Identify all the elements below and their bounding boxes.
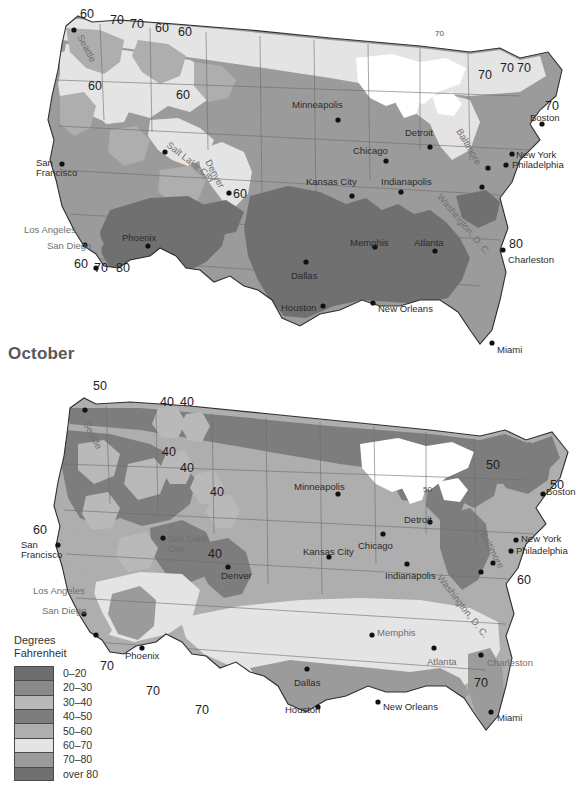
city-dot <box>485 165 490 170</box>
city-dot <box>488 709 493 714</box>
city-label: Miami <box>497 345 522 355</box>
contour-label: 70 <box>110 14 124 27</box>
legend-row: 40–50 <box>14 709 98 723</box>
legend-row: 20–30 <box>14 680 98 694</box>
city-label: Los Angeles <box>24 225 76 235</box>
legend-label: 0–20 <box>63 667 86 679</box>
contour-label: 50 <box>423 486 432 494</box>
city-label: Salt Lake City <box>168 534 208 554</box>
city-dot <box>335 491 340 496</box>
city-dot <box>160 535 165 540</box>
contour-label: 40 <box>180 396 194 409</box>
legend-swatch <box>14 723 54 737</box>
contour-label: 60 <box>517 574 531 587</box>
contour-label: 60 <box>176 89 190 102</box>
city-label: Boston <box>546 487 576 497</box>
contour-label: 40 <box>162 446 176 459</box>
city-dot <box>431 645 436 650</box>
legend-label: 30–40 <box>63 696 92 708</box>
city-dot <box>478 569 483 574</box>
city-dot <box>540 491 545 496</box>
city-label: Denver <box>221 571 252 581</box>
contour-label: 70 <box>478 69 492 82</box>
city-label: Charleston <box>508 255 554 265</box>
city-dot <box>335 117 340 122</box>
city-label: Houston <box>281 303 316 313</box>
city-label: Dallas <box>294 678 320 688</box>
city-dot <box>380 531 385 536</box>
legend-swatch <box>14 709 54 723</box>
legend-row: 0–20 <box>14 666 98 680</box>
city-label: New York <box>521 534 561 544</box>
contour-label: 70 <box>517 62 531 75</box>
city-dot <box>508 548 513 553</box>
city-label: San Francisco <box>21 540 62 560</box>
july-temperature-map: 6070706060606060607080707070707080Seattl… <box>0 0 582 345</box>
city-dot <box>303 259 308 264</box>
contour-label: 70 <box>435 30 444 38</box>
legend-swatch <box>14 666 54 680</box>
legend-row: 50–60 <box>14 723 98 737</box>
contour-label: 60 <box>33 524 47 537</box>
city-dot <box>404 561 409 566</box>
city-label: Phoenix <box>122 233 156 243</box>
contour-label: 80 <box>116 262 130 275</box>
legend-row: 60–70 <box>14 738 98 752</box>
city-label: New Orleans <box>378 304 433 314</box>
contour-label: 60 <box>74 258 88 271</box>
legend-title: Degrees Fahrenheit <box>14 634 98 661</box>
contour-label: 70 <box>100 660 114 673</box>
city-dot <box>225 564 230 569</box>
city-dot <box>432 248 437 253</box>
section-title-october: October <box>8 344 75 364</box>
contour-label: 40 <box>180 462 194 475</box>
city-label: Charleston <box>487 658 533 668</box>
city-label: Detroit <box>404 515 432 525</box>
contour-label: 70 <box>94 262 108 275</box>
city-dot <box>479 184 484 189</box>
contour-label: 80 <box>509 238 523 251</box>
legend-title-line2: Fahrenheit <box>14 647 98 660</box>
city-label: Chicago <box>353 146 388 156</box>
contour-label: 60 <box>88 80 102 93</box>
city-dot <box>398 189 403 194</box>
legend-row: over 80 <box>14 767 98 781</box>
city-label: Phoenix <box>125 651 159 661</box>
city-label: Minneapolis <box>292 100 343 110</box>
city-label: Philadelphia <box>516 546 568 556</box>
legend-row: 70–80 <box>14 752 98 766</box>
contour-label: 70 <box>500 62 514 75</box>
city-label: Memphis <box>377 628 416 638</box>
city-dot <box>145 243 150 248</box>
legend-label: 20–30 <box>63 681 92 693</box>
city-dot <box>500 247 505 252</box>
contour-label: 40 <box>208 548 222 561</box>
contour-label: 60 <box>80 8 94 21</box>
city-label: New Orleans <box>383 702 438 712</box>
city-label: Houston <box>285 705 320 715</box>
city-label: Memphis <box>350 238 389 248</box>
city-label: Boston <box>530 113 560 123</box>
city-label: Indianapolis <box>381 177 432 187</box>
legend-swatch <box>14 752 54 766</box>
city-dot <box>370 300 375 305</box>
city-dot <box>82 407 87 412</box>
contour-label: 40 <box>210 486 224 499</box>
city-label: Indianapolis <box>385 571 436 581</box>
contour-label: 50 <box>93 380 107 393</box>
legend-swatch <box>14 695 54 709</box>
city-label: San Francisco <box>36 158 77 178</box>
city-dot <box>503 162 508 167</box>
contour-label: 70 <box>474 677 488 690</box>
city-label: Kansas City <box>306 177 357 187</box>
contour-label: 60 <box>233 188 247 201</box>
city-dot <box>369 632 374 637</box>
contour-label: 70 <box>545 100 559 113</box>
legend: Degrees Fahrenheit 0–2020–3030–4040–5050… <box>14 634 98 781</box>
city-label: San Diego <box>47 241 91 251</box>
city-dot <box>383 158 388 163</box>
legend-rows: 0–2020–3030–4040–5050–6060–7070–80over 8… <box>14 666 98 781</box>
legend-title-line1: Degrees <box>14 634 98 647</box>
city-label: Kansas City <box>303 547 354 557</box>
legend-row: 30–40 <box>14 695 98 709</box>
